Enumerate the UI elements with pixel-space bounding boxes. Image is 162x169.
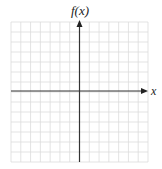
x-axis-arrow-icon [141,88,148,94]
coordinate-plane: x f(x) [0,0,162,169]
x-axis-label: x [150,84,157,98]
y-axis-arrow-icon [77,20,83,27]
y-axis-label: f(x) [71,3,89,18]
